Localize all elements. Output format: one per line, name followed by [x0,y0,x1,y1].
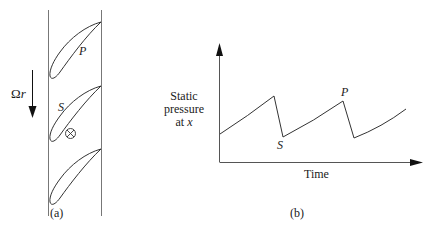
rotation-arrow-head [29,106,37,118]
variable-x: x [187,115,192,129]
probe-symbol-icon [66,129,76,139]
peak-label: P [341,86,348,99]
y-axis-label-line-3-text: at x [176,115,193,129]
rotation-label: Ωr [11,87,26,100]
panel-a-caption: (a) [50,207,63,220]
panel-a-cascade [29,10,102,216]
panel-b-caption: (b) [290,207,304,220]
y-axis-label-line-3: at x [154,116,214,129]
blade-3 [50,149,101,204]
pressure-trace [220,96,406,138]
y-axis-arrow-icon [216,43,223,56]
blade-suction-side-label: S [58,101,64,114]
trough-label: S [277,139,283,152]
variable-r: r [21,86,26,101]
panel-b-chart [216,43,423,166]
y-axis-label: Static pressure at x [154,90,214,129]
x-axis-label: Time [304,168,329,181]
x-axis-arrow-icon [410,159,423,166]
blade-pressure-side-label: P [79,45,86,58]
blade-1 [50,22,101,78]
omega-r-text: Ωr [11,86,26,101]
figure-canvas [0,0,431,249]
